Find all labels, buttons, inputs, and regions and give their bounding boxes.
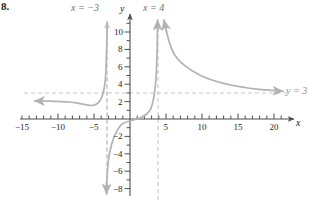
asymptote-group	[24, 22, 288, 200]
x-tick-label: 10	[198, 122, 207, 132]
y-axis-ticks	[125, 23, 131, 188]
x-tick-label: 15	[234, 122, 243, 132]
x-tick-label: 20	[270, 122, 279, 132]
vertical-asymptote-left-label: x = −3	[71, 3, 99, 13]
y-tick-label: −8	[113, 184, 123, 194]
x-tick-label: −10	[51, 122, 65, 132]
graph-figure: 8.	[0, 0, 313, 214]
x-tick-label: −15	[15, 122, 29, 132]
curve-group	[35, 20, 284, 194]
y-tick-label: 10	[114, 27, 123, 37]
horizontal-asymptote-label: y = 3	[286, 86, 307, 96]
coordinate-plot	[0, 0, 313, 214]
x-axis-label: x	[296, 118, 300, 128]
y-tick-label: 8	[118, 44, 123, 54]
y-tick-label: −4	[113, 149, 123, 159]
y-tick-label: 6	[118, 62, 123, 72]
x-tick-label: −5	[89, 122, 99, 132]
x-axis-ticks	[22, 114, 281, 120]
y-tick-label: −2	[113, 131, 123, 141]
y-tick-label: 4	[118, 79, 123, 89]
y-tick-label: −6	[113, 166, 123, 176]
right-branch-curve	[165, 22, 283, 91]
vertical-asymptote-right-label: x = 4	[143, 3, 164, 13]
y-axis-label: y	[120, 4, 124, 14]
middle-branch-curve	[107, 22, 158, 188]
x-tick-label: 5	[164, 122, 169, 132]
y-tick-label: 2	[118, 97, 123, 107]
